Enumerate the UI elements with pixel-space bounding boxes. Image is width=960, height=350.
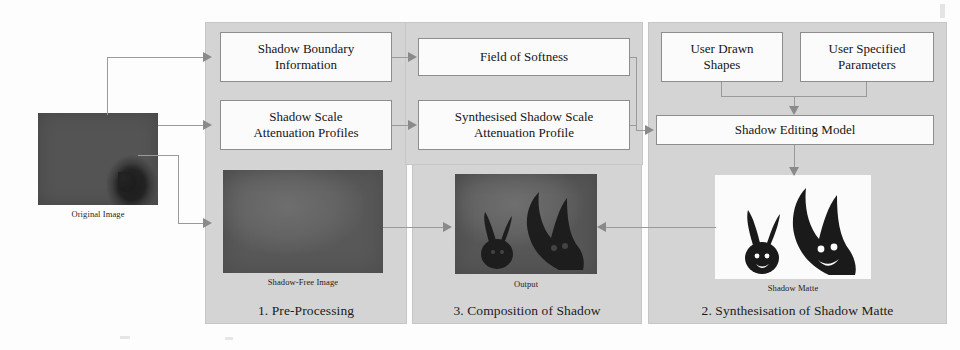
box-user-specified-parameters-line2: Parameters [829, 57, 906, 73]
connector-original-to-boundary-horizontal [107, 57, 203, 58]
panel-caption-synthesisation: 2. Synthesisation of Shadow Matte [649, 303, 946, 319]
connector-original-to-boundary-vertical [107, 57, 108, 115]
panel-caption-pre-processing: 1. Pre-Processing [206, 303, 406, 319]
arrow-into-shadow-editing-model-top [789, 106, 799, 115]
box-shadow-boundary-information-line2: Information [258, 57, 354, 73]
arrow-into-synthesised-profile [408, 120, 417, 130]
arrow-into-output-image-from-matte [597, 222, 606, 232]
arrow-into-shadow-editing-model [645, 125, 654, 135]
shadow-matte-thumbnail [715, 175, 871, 279]
output-shadow-shapes [455, 174, 597, 274]
original-image-caption: Original Image [38, 209, 158, 219]
arrow-into-shadow-free-image [203, 218, 212, 228]
connector-original-to-shadowfree-horizontal-a [138, 155, 178, 156]
box-shadow-scale-attenuation-profiles-line2: Attenuation Profiles [253, 125, 358, 141]
shadow-free-image-caption: Shadow-Free Image [223, 277, 383, 287]
box-synthesised-profile-line1: Synthesised Shadow Scale [455, 109, 594, 125]
box-user-specified-parameters-line1: User Specified [829, 41, 906, 57]
connector-original-to-shadowfree-horizontal-b [178, 223, 203, 224]
scan-artifact-top-right [940, 4, 945, 18]
original-image-thumbnail [38, 113, 158, 205]
box-shadow-editing-model-line1: Shadow Editing Model [735, 122, 856, 138]
connector-matte-to-output [606, 227, 716, 228]
box-field-of-softness[interactable]: Field of Softness [418, 38, 630, 76]
connector-shadowfree-to-output [383, 227, 445, 228]
box-shadow-scale-attenuation-profiles[interactable]: Shadow Scale Attenuation Profiles [220, 100, 392, 150]
arrow-into-shadow-matte [789, 167, 799, 176]
diagram-canvas: 1. Pre-Processing 3. Composition of Shad… [0, 0, 960, 350]
box-field-of-softness-line1: Field of Softness [480, 49, 568, 65]
shadow-matte-shapes [715, 175, 871, 279]
arrow-into-output-image [443, 222, 452, 232]
box-user-drawn-shapes[interactable]: User Drawn Shapes [661, 32, 783, 82]
arrow-into-shadow-boundary-information [203, 52, 212, 62]
connector-synthesised-to-bus [630, 125, 637, 126]
output-image-thumbnail [455, 174, 597, 274]
box-user-drawn-shapes-line1: User Drawn [690, 41, 753, 57]
shadow-free-image-thumbnail [223, 170, 383, 273]
connector-original-to-scale-profiles [158, 125, 203, 126]
connector-right-bus-vertical [636, 57, 637, 130]
box-synthesised-profile-line2: Attenuation Profile [455, 125, 594, 141]
box-shadow-boundary-information-line1: Shadow Boundary [258, 41, 354, 57]
output-image-caption: Output [455, 279, 597, 289]
box-shadow-boundary-information[interactable]: Shadow Boundary Information [220, 32, 392, 82]
box-user-drawn-shapes-line2: Shapes [690, 57, 753, 73]
arrow-into-shadow-scale-attenuation-profiles [203, 120, 212, 130]
original-image-blob [118, 172, 136, 192]
scan-artifact-bottom-center [225, 337, 233, 340]
box-shadow-editing-model[interactable]: Shadow Editing Model [656, 115, 934, 145]
arrow-into-field-of-softness [408, 52, 417, 62]
connector-original-to-shadowfree-vertical [178, 155, 179, 223]
connector-user-shapes-down [721, 82, 722, 96]
connector-user-params-down [866, 82, 867, 96]
shadow-matte-caption: Shadow Matte [715, 283, 871, 293]
box-user-specified-parameters[interactable]: User Specified Parameters [800, 32, 934, 82]
box-synthesised-shadow-scale-attenuation-profile[interactable]: Synthesised Shadow Scale Attenuation Pro… [418, 100, 630, 150]
box-shadow-scale-attenuation-profiles-line1: Shadow Scale [253, 109, 358, 125]
scan-artifact-bottom-left [120, 336, 130, 339]
panel-caption-composition: 3. Composition of Shadow [413, 303, 641, 319]
